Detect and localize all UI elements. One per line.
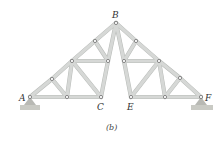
truss-figure: A B C E F (b) [0,0,223,142]
joint-C [99,95,102,98]
member-R5-R4 [165,78,180,97]
figure-caption: (b) [106,123,117,132]
member-L4-C [101,61,108,97]
member-R2-E [124,61,131,97]
joint-R3 [157,59,160,62]
label-C: C [97,102,104,112]
joint-R4 [178,76,181,79]
joint-R1 [134,39,137,42]
joint-L5 [65,95,68,98]
member-L2-L3 [72,41,95,61]
joint-F [199,95,202,98]
joint-R2 [122,59,125,62]
member-A-L1 [30,79,52,97]
member-R1-R3 [136,41,159,61]
member-R4-F [180,78,201,97]
joint-R5 [163,95,166,98]
member-L2-C [72,61,101,97]
member-E-R3 [131,61,159,97]
member-L3-L4 [95,41,108,61]
label-B: B [111,10,119,20]
member-R1-R2 [124,41,136,61]
label-F: F [204,93,212,103]
label-A: A [18,93,26,103]
joint-L4 [106,59,109,62]
truss-diagram: A B C E F (b) [0,0,223,142]
joint-B [114,21,117,24]
joint-L3 [93,39,96,42]
joint-L1 [50,77,53,80]
label-E: E [126,102,134,112]
joint-A [28,95,31,98]
member-L1-L5 [52,79,67,97]
joint-L2 [70,59,73,62]
joint-E [129,95,132,98]
